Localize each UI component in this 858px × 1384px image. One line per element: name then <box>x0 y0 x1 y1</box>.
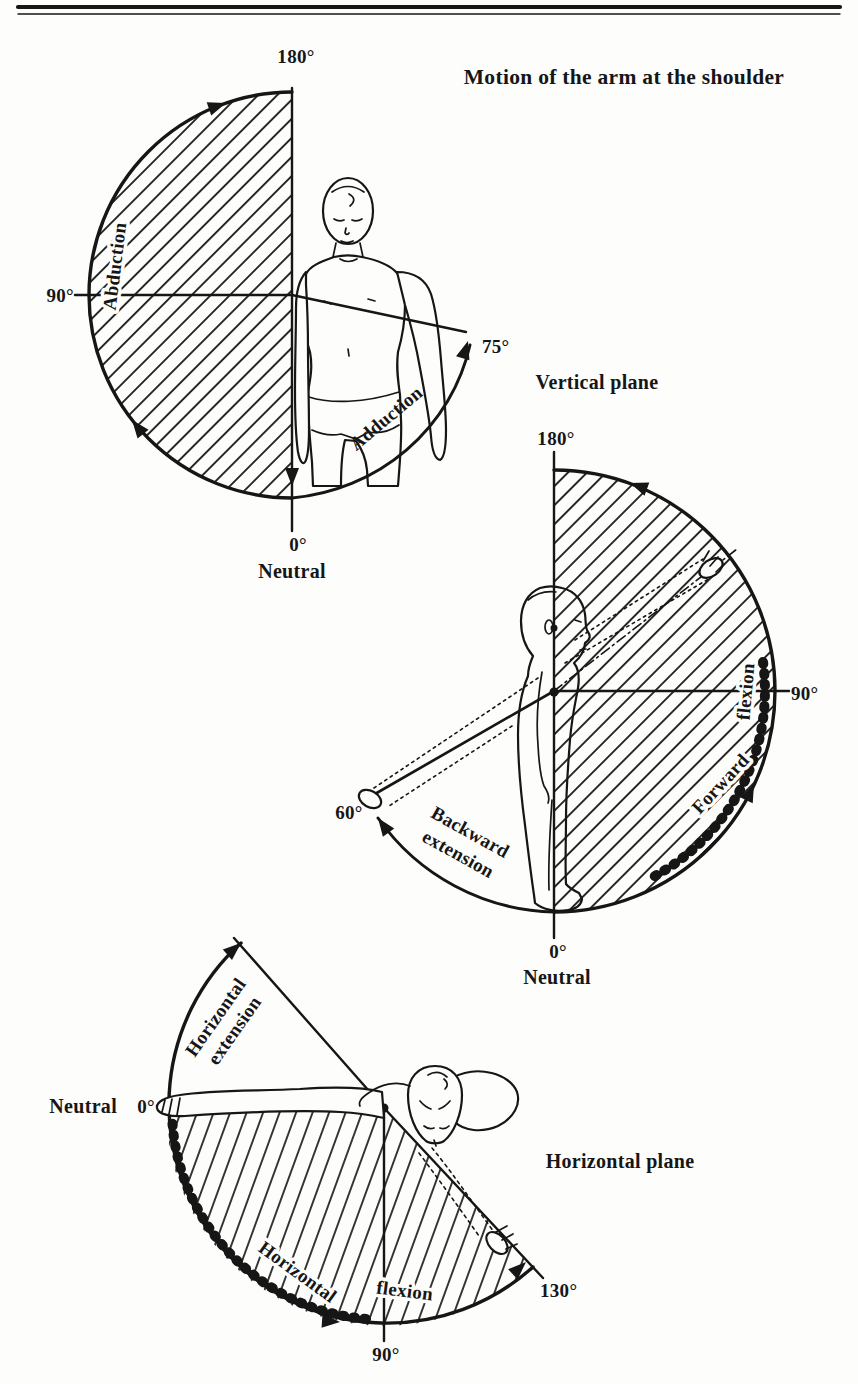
ear-point <box>551 625 558 632</box>
angle-label-0: 0° <box>289 534 307 555</box>
figure-title: Motion of the arm at the shoulder <box>464 65 785 89</box>
angle-label-130: 130° <box>540 1280 577 1301</box>
angle-label-0: 0° <box>137 1096 155 1117</box>
angle-label-90: 90° <box>47 285 75 306</box>
angle-label-90: 90° <box>372 1344 400 1365</box>
angle-label-0: 0° <box>549 941 567 962</box>
scanned-figure-page: Motion of the arm at the shoulder 180° 9… <box>0 0 858 1384</box>
angle-label-60: 60° <box>335 802 363 823</box>
angle-label-180: 180° <box>537 428 574 449</box>
horizontal-flexion-hatched-region <box>166 1108 533 1326</box>
frontal-diagram: 180° 90° 75° 0° Neutral Abduction Adduct… <box>47 46 510 582</box>
angle-label-180: 180° <box>277 46 314 67</box>
shoulder-motion-figure: Motion of the arm at the shoulder 180° 9… <box>0 0 858 1384</box>
adduction-arrow <box>456 339 475 360</box>
right-arm <box>397 272 446 460</box>
extension-line <box>234 938 384 1108</box>
page-top-rule <box>18 7 840 14</box>
angle-label-90: 90° <box>791 683 819 704</box>
angle-label-75: 75° <box>482 336 510 357</box>
left-arm <box>295 272 309 463</box>
horizontal-plane-diagram: Horizontal plane Neutral 0° 90° 130° Hor… <box>49 938 694 1365</box>
vertical-plane-diagram: Vertical plane 180° 90° 60° 0° Neutral F… <box>335 371 818 988</box>
plane-caption: Vertical plane <box>536 371 659 394</box>
neutral-label: Neutral <box>258 560 326 582</box>
horizontal-extension-label: Horizontal extension <box>181 974 269 1073</box>
plane-caption: Horizontal plane <box>546 1150 695 1173</box>
neutral-label: Neutral <box>523 966 591 988</box>
neutral-label: Neutral <box>49 1095 117 1117</box>
head-top-view <box>408 1066 462 1143</box>
